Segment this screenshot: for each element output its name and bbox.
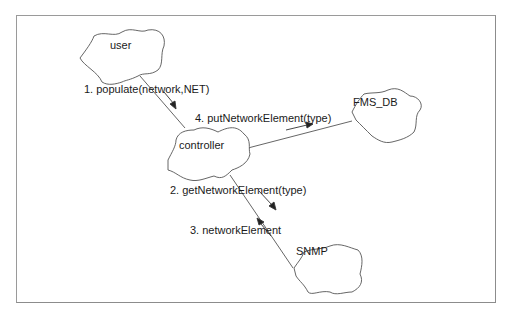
message-label-3: 3. networkElement (190, 224, 281, 236)
controller-node-label: controller (179, 139, 224, 151)
message-label-4: 4. putNetworkElement(type) (195, 112, 331, 124)
user-node-cloud[interactable] (80, 30, 164, 85)
diagram-canvas (0, 0, 514, 316)
snmp-node-label: SNMP (296, 245, 328, 257)
message-label-1: 1. populate(network,NET) (84, 83, 209, 95)
arrowhead-icon (170, 101, 176, 109)
message-arrow-4 (286, 125, 307, 130)
controller-node-cloud[interactable] (168, 128, 250, 181)
message-label-2: 2. getNetworkElement(type) (170, 184, 306, 196)
fms-db-node-label: FMS_DB (353, 96, 398, 108)
link-controller-fmsdb (248, 121, 352, 148)
user-node-label: user (110, 39, 131, 51)
